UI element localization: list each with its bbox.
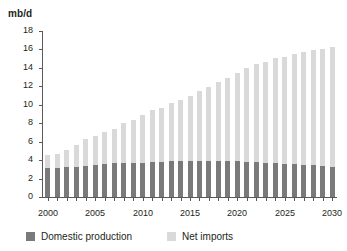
x-axis-tick-label: 2030	[322, 208, 342, 218]
legend-label-domestic-production: Domestic production	[41, 231, 132, 242]
bar-stack	[45, 155, 50, 197]
x-axis-tick-mark	[133, 197, 134, 201]
x-axis-tick-mark	[190, 197, 191, 201]
bar-segment-domestic-production	[320, 166, 325, 197]
bar-segment-domestic-production	[150, 162, 155, 197]
bar-segment-domestic-production	[169, 161, 174, 197]
x-axis-tick-mark	[162, 197, 163, 201]
bar-segment-domestic-production	[121, 163, 126, 197]
y-axis-tick-mark	[39, 142, 43, 143]
y-axis-tick-label: 0	[28, 191, 33, 201]
bar-segment-domestic-production	[55, 168, 60, 198]
bar-stack	[273, 58, 278, 197]
bar-segment-net-imports	[55, 154, 60, 168]
bar-segment-net-imports	[74, 145, 79, 166]
bar-segment-domestic-production	[140, 163, 145, 197]
bar-segment-domestic-production	[112, 163, 117, 197]
x-axis-tick-label: 2020	[227, 208, 247, 218]
y-axis-tick-mark	[39, 105, 43, 106]
bar-segment-domestic-production	[225, 161, 230, 197]
x-axis-tick-mark	[323, 197, 324, 201]
bar-stack	[64, 150, 69, 197]
bar-stack	[121, 123, 126, 197]
y-axis-tick-label: 2	[28, 173, 33, 183]
bar-segment-net-imports	[178, 100, 183, 161]
bar-segment-net-imports	[301, 52, 306, 165]
x-axis-tick-mark	[105, 197, 106, 201]
chart-legend: Domestic production Net imports	[0, 228, 347, 250]
x-axis-tick-mark	[304, 197, 305, 201]
x-axis-tick-label: 2015	[180, 208, 200, 218]
y-axis-tick-mark	[39, 86, 43, 87]
x-axis-tick-mark	[332, 197, 333, 201]
bar-segment-domestic-production	[235, 161, 240, 197]
bar-segment-domestic-production	[74, 167, 79, 197]
bar-segment-net-imports	[121, 123, 126, 163]
bar-segment-domestic-production	[301, 165, 306, 197]
y-axis-tick-mark	[39, 197, 43, 198]
x-axis-tick-mark	[247, 197, 248, 201]
y-axis-tick-mark	[39, 31, 43, 32]
bar-segment-domestic-production	[102, 164, 107, 197]
bar-stack	[301, 52, 306, 197]
bar-segment-domestic-production	[64, 167, 69, 197]
x-axis-tick-mark	[76, 197, 77, 201]
bar-stack	[131, 120, 136, 197]
y-axis-tick-label: 4	[28, 154, 33, 164]
x-axis-tick-mark	[199, 197, 200, 201]
bar-segment-domestic-production	[93, 165, 98, 197]
y-axis-tick-label: 16	[23, 43, 33, 53]
bar-segment-domestic-production	[311, 165, 316, 197]
bar-stack	[83, 139, 88, 197]
x-axis-tick-mark	[48, 197, 49, 201]
bar-stack	[235, 73, 240, 197]
bar-segment-domestic-production	[206, 161, 211, 197]
y-axis-tick-mark	[39, 123, 43, 124]
bar-segment-domestic-production	[131, 163, 136, 197]
y-axis-title: mb/d	[8, 8, 32, 19]
bar-segment-net-imports	[282, 57, 287, 164]
bar-stack	[188, 96, 193, 197]
bar-stack	[159, 108, 164, 197]
y-axis-tick-mark	[39, 49, 43, 50]
bar-segment-net-imports	[159, 108, 164, 162]
bar-stack	[244, 68, 249, 197]
bar-segment-net-imports	[102, 132, 107, 163]
y-axis-tick-label: 10	[23, 99, 33, 109]
bar-segment-net-imports	[225, 78, 230, 161]
bar-stack	[178, 100, 183, 197]
x-axis-tick-mark	[275, 197, 276, 201]
bar-stack	[197, 91, 202, 197]
x-axis-tick-mark	[266, 197, 267, 201]
x-axis-tick-label: 2025	[275, 208, 295, 218]
legend-swatch-domestic-production	[26, 232, 35, 241]
bar-segment-net-imports	[140, 115, 145, 163]
bar-segment-net-imports	[83, 139, 88, 166]
x-axis-tick-label: 2005	[85, 208, 105, 218]
bar-segment-net-imports	[235, 73, 240, 162]
x-axis-tick-mark	[218, 197, 219, 201]
y-axis-tick-mark	[39, 68, 43, 69]
bar-stack	[320, 49, 325, 197]
bar-segment-net-imports	[263, 62, 268, 163]
legend-label-net-imports: Net imports	[182, 231, 233, 242]
x-axis-tick-label: 2010	[133, 208, 153, 218]
bar-segment-net-imports	[64, 150, 69, 167]
bar-stack	[93, 136, 98, 197]
y-axis-tick-label: 12	[23, 80, 33, 90]
bar-segment-net-imports	[206, 87, 211, 161]
y-axis-tick-label: 6	[28, 136, 33, 146]
x-axis-tick-mark	[294, 197, 295, 201]
bar-segment-net-imports	[254, 64, 259, 162]
bar-segment-net-imports	[112, 129, 117, 163]
x-axis-tick-mark	[285, 197, 286, 201]
bar-segment-net-imports	[330, 47, 335, 167]
bar-segment-domestic-production	[159, 162, 164, 197]
x-axis-tick-mark	[57, 197, 58, 201]
y-axis-tick-label: 18	[23, 25, 33, 35]
bar-segment-net-imports	[320, 49, 325, 166]
y-axis-tick-label: 8	[28, 117, 33, 127]
bar-stack	[254, 64, 259, 197]
bar-segment-domestic-production	[292, 164, 297, 197]
bar-segment-net-imports	[131, 120, 136, 162]
